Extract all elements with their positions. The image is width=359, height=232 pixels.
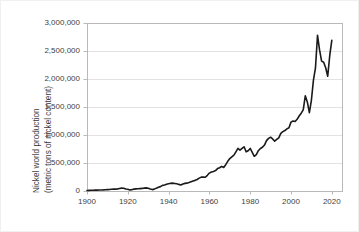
gridlines: [87, 24, 342, 164]
data-series-line: [87, 35, 332, 190]
chart-figure: Nickel world production (metric tons of …: [0, 0, 359, 232]
line-chart-plot: [1, 1, 359, 232]
